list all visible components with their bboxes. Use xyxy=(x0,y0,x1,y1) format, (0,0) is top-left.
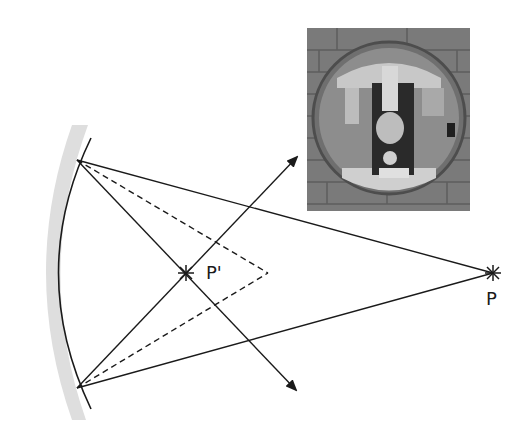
photo-illustration xyxy=(307,28,470,211)
incident-ray-bottom xyxy=(77,273,493,388)
dashed-line-top xyxy=(77,160,268,273)
object-point-marker xyxy=(485,265,501,281)
image-point-marker xyxy=(178,265,194,281)
mirror-backing xyxy=(46,125,88,420)
image-point-label: P' xyxy=(206,262,222,283)
mirror-photo xyxy=(307,28,470,211)
object-point-label: P xyxy=(486,288,497,309)
